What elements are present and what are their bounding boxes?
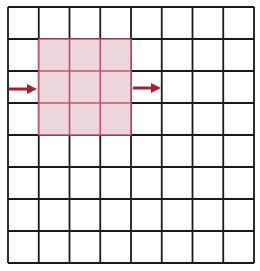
highlight-fill [39, 39, 131, 135]
incoming-arrow-icon [9, 84, 37, 94]
grid-diagram [0, 0, 260, 271]
highlighted-kernel-region [39, 39, 131, 135]
outgoing-arrow-icon [133, 83, 161, 93]
